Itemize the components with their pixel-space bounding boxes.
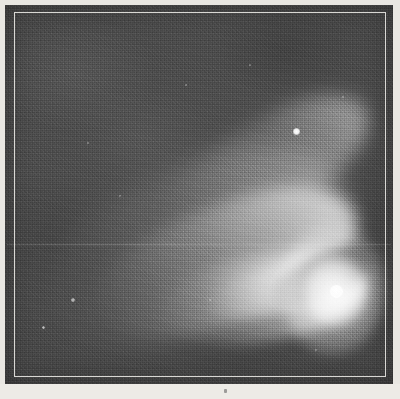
comet-photograph-figure [0,0,400,399]
photographic-plate [5,5,393,384]
caption-text [0,384,1,385]
film-grain-texture [5,5,393,384]
caption-margin [0,384,400,399]
caption-mark [224,389,227,393]
